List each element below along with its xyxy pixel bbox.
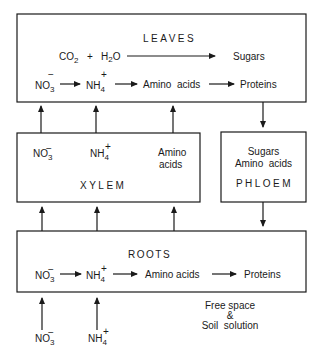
h2o-label: H2O xyxy=(101,51,120,63)
xylem-nitrate: NO3 − xyxy=(33,148,52,160)
xylem-title: XYLEM xyxy=(80,180,126,191)
roots-box xyxy=(17,231,306,292)
leaves-title: LEAVES xyxy=(143,33,196,44)
roots-nitrate: NO3 − xyxy=(35,270,54,282)
xylem-amino-line1: Amino xyxy=(158,147,186,158)
leaves-proteins: Proteins xyxy=(240,79,277,90)
roots-amino-acids: Amino acids xyxy=(145,269,199,280)
plus-sign: + xyxy=(87,51,93,62)
sugars-product: Sugars xyxy=(233,51,265,62)
co2-label: CO2 xyxy=(59,51,78,63)
xylem-ammonium: NH4 + xyxy=(90,148,109,160)
soil-ammonium: NH4 + xyxy=(88,333,107,345)
soil-nitrate: NO3 − xyxy=(35,333,54,345)
leaves-amino-acids: Amino acids xyxy=(143,79,200,90)
roots-title: ROOTS xyxy=(128,249,171,260)
roots-proteins: Proteins xyxy=(244,269,281,280)
phloem-amino-acids: Amino acids xyxy=(221,158,306,169)
soil-solution: Soil solution xyxy=(190,320,270,331)
phloem-sugars: Sugars xyxy=(221,146,306,157)
phloem-title: PHLOEM xyxy=(221,178,308,189)
leaves-nitrate: NO3 − xyxy=(35,80,54,92)
leaves-ammonium: NH4 + xyxy=(86,80,105,92)
xylem-amino-line2: acids xyxy=(159,159,182,170)
roots-ammonium: NH4 + xyxy=(86,270,105,282)
